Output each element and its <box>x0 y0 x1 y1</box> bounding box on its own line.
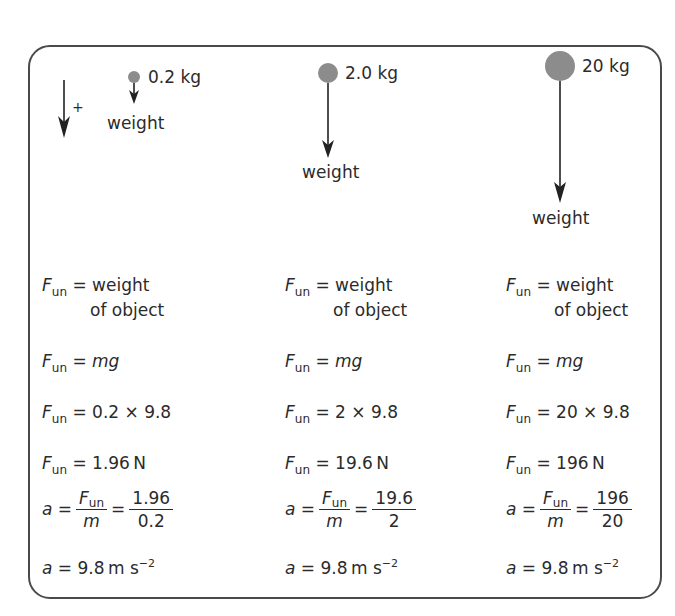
eq-definition-cont: of object <box>554 302 628 319</box>
eq-result: Fun = 196 N <box>506 455 605 472</box>
eq-result: Fun = 19.6 N <box>285 455 389 472</box>
weight-label-2: weight <box>302 164 359 181</box>
eq-definition-cont: of object <box>333 302 407 319</box>
eq-acceleration-result: a = 9.8 m s−2 <box>506 560 619 577</box>
eq-substitution: Fun = 2 × 9.8 <box>285 404 398 421</box>
eq-acceleration-fraction: a =Funm=1.960.2 <box>42 490 177 530</box>
eq-result: Fun = 1.96 N <box>42 455 146 472</box>
eq-formula: Fun = mg <box>285 353 362 370</box>
eq-acceleration-fraction: a =Funm=19620 <box>506 490 636 530</box>
mass-20kg-icon <box>545 51 575 203</box>
eq-definition: Fun = weight <box>285 277 392 294</box>
eq-definition: Fun = weight <box>506 277 613 294</box>
mass-label-1: 0.2 kg <box>148 69 201 86</box>
direction-arrow-icon <box>58 80 70 138</box>
mass-label-3: 20 kg <box>582 58 630 75</box>
eq-formula: Fun = mg <box>506 353 583 370</box>
mass-0-2kg-icon <box>128 71 140 104</box>
eq-acceleration-fraction: a =Funm=19.62 <box>285 490 420 530</box>
eq-substitution: Fun = 20 × 9.8 <box>506 404 630 421</box>
positive-direction-sign: + <box>72 100 84 114</box>
weight-label-3: weight <box>532 210 589 227</box>
eq-acceleration-result: a = 9.8 m s−2 <box>42 560 155 577</box>
eq-acceleration-result: a = 9.8 m s−2 <box>285 560 398 577</box>
eq-substitution: Fun = 0.2 × 9.8 <box>42 404 171 421</box>
eq-definition-cont: of object <box>90 302 164 319</box>
weight-label-1: weight <box>107 115 164 132</box>
eq-definition: Fun = weight <box>42 277 149 294</box>
mass-2kg-icon <box>318 63 338 158</box>
mass-label-2: 2.0 kg <box>345 65 398 82</box>
eq-formula: Fun = mg <box>42 353 119 370</box>
